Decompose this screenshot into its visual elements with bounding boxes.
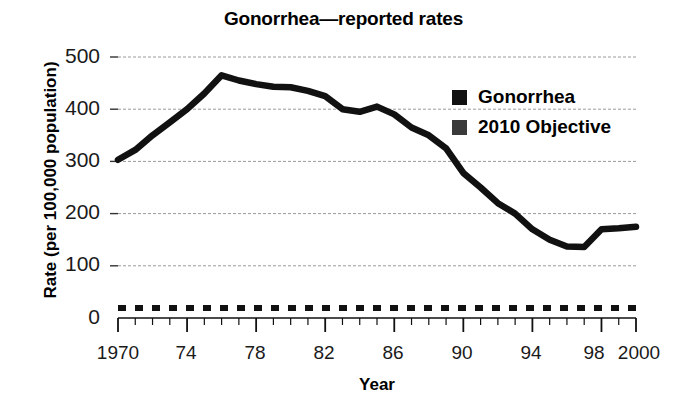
legend-swatch-icon-gonorrhea <box>452 90 467 105</box>
chart-figure: Gonorrhea—reported rates Rate (per 100,0… <box>0 0 687 409</box>
legend-swatch-icon-2010-objective <box>452 120 467 135</box>
chart-legend: Gonorrhea 2010 Objective <box>452 84 662 144</box>
legend-label-gonorrhea: Gonorrhea <box>478 86 575 108</box>
legend-label-2010-objective: 2010 Objective <box>478 116 611 138</box>
plot-area <box>0 0 687 409</box>
axis-ticks <box>118 318 636 332</box>
legend-item-2010-objective: 2010 Objective <box>452 114 662 140</box>
legend-item-gonorrhea: Gonorrhea <box>452 84 662 110</box>
